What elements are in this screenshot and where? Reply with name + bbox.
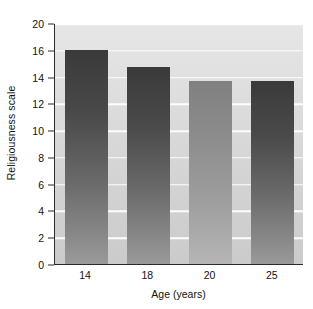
- plot-area: [54, 24, 303, 265]
- x-axis-tick-label: 18: [142, 269, 154, 281]
- y-axis-tick-label: 2: [38, 232, 44, 244]
- y-axis-tick-label: 0: [38, 259, 44, 271]
- y-axis-tick-label: 4: [38, 205, 44, 217]
- bar-chart-figure: Religiousness scale 024681012141620 1418…: [0, 0, 313, 309]
- y-axis-tick-labels: 024681012141620: [22, 0, 48, 309]
- gridline: [55, 24, 303, 25]
- bar: [189, 81, 232, 264]
- y-axis-tick-label: 6: [38, 179, 44, 191]
- x-axis-tick-label: 14: [79, 269, 91, 281]
- bar: [65, 50, 108, 264]
- x-axis-tick-labels: 14182025: [54, 269, 303, 287]
- y-axis-tick-label: 8: [38, 152, 44, 164]
- x-axis-title: Age (years): [54, 288, 303, 300]
- bar: [251, 81, 294, 264]
- y-axis-tick-label: 16: [32, 45, 44, 57]
- plot-inner: [55, 24, 303, 264]
- x-axis-tick-label: 25: [266, 269, 278, 281]
- y-axis-tick-label: 12: [32, 98, 44, 110]
- x-axis-tick-label: 20: [204, 269, 216, 281]
- y-axis-title: Religiousness scale: [0, 0, 22, 265]
- bar: [127, 67, 170, 264]
- y-axis-tick-label: 20: [32, 18, 44, 30]
- y-axis-title-text: Religiousness scale: [5, 85, 17, 180]
- y-axis-tick-label: 10: [32, 125, 44, 137]
- y-axis-tick-label: 14: [32, 72, 44, 84]
